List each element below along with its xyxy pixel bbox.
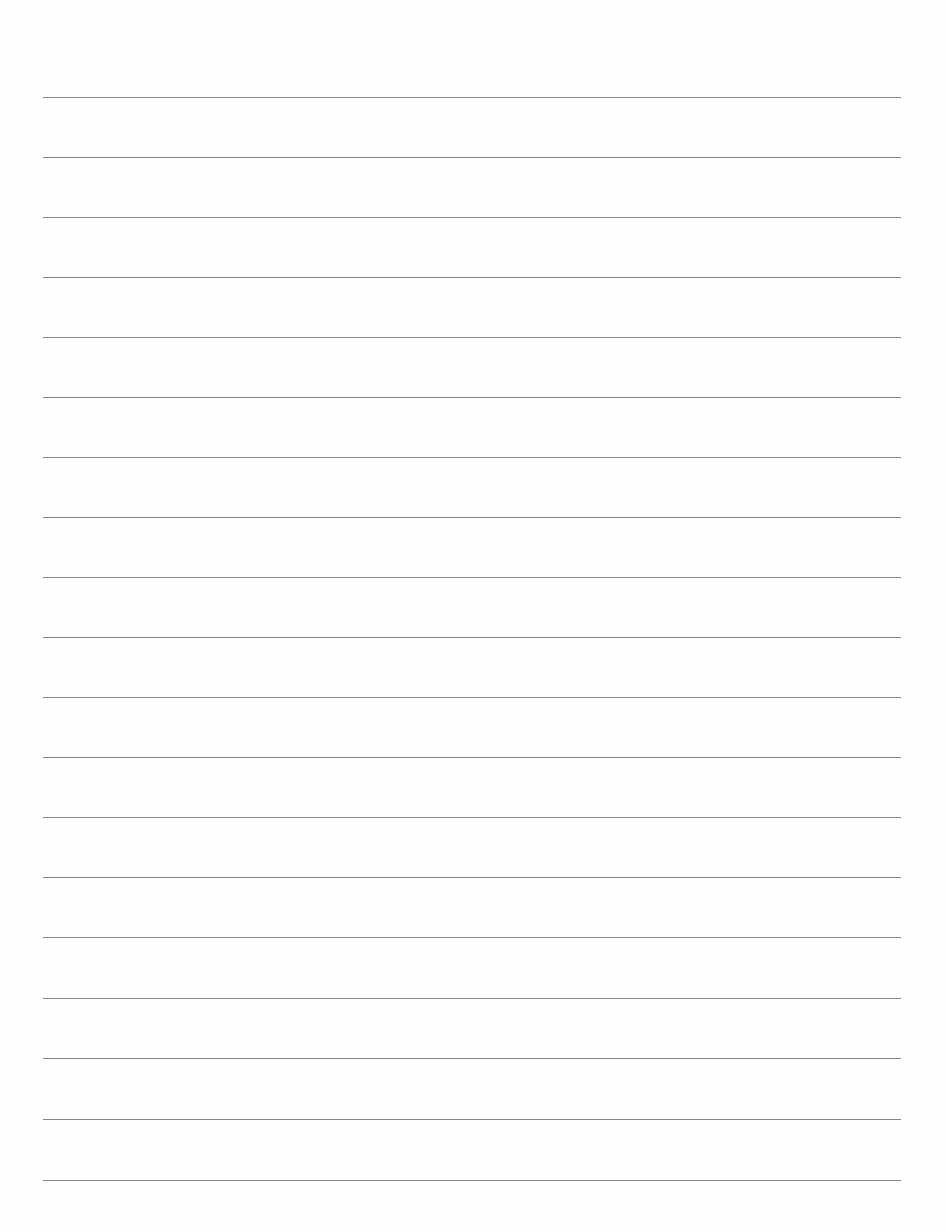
ruled-line — [43, 817, 901, 818]
ruled-line — [43, 697, 901, 698]
ruled-line — [43, 757, 901, 758]
ruled-line — [43, 1180, 901, 1181]
ruled-line — [43, 937, 901, 938]
ruled-line — [43, 457, 901, 458]
ruled-line — [43, 277, 901, 278]
ruled-line — [43, 637, 901, 638]
lined-paper-page — [0, 0, 946, 1232]
ruled-line — [43, 157, 901, 158]
ruled-line — [43, 517, 901, 518]
ruled-line — [43, 998, 901, 999]
ruled-line — [43, 1119, 901, 1120]
ruled-line — [43, 337, 901, 338]
ruled-line — [43, 97, 901, 98]
ruled-line — [43, 1058, 901, 1059]
ruled-line — [43, 577, 901, 578]
ruled-line — [43, 397, 901, 398]
ruled-line — [43, 877, 901, 878]
ruled-line — [43, 217, 901, 218]
